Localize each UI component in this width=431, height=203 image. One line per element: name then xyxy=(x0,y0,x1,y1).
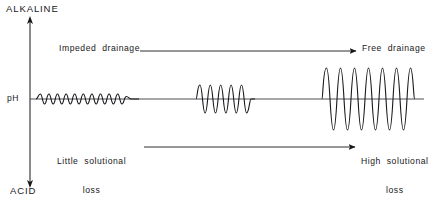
label-high-solutional-loss-line1: High solutional xyxy=(361,157,429,167)
axis-label-ph: pH xyxy=(7,94,19,104)
label-little-solutional-loss-line1: Little solutional xyxy=(57,157,126,167)
ph-drainage-diagram: ALKALINE ACID pH Impeded drainage Free d… xyxy=(0,0,431,203)
label-high-solutional-loss: High solutional loss xyxy=(361,137,429,203)
axis-label-alkaline: ALKALINE xyxy=(6,4,59,15)
label-impeded-drainage: Impeded drainage xyxy=(59,44,140,54)
label-free-drainage: Free drainage xyxy=(362,44,426,54)
vertical-axis xyxy=(27,16,33,188)
label-little-solutional-loss: Little solutional loss xyxy=(57,137,126,203)
label-little-solutional-loss-line2: loss xyxy=(57,186,126,196)
axis-label-acid: ACID xyxy=(10,186,36,197)
label-high-solutional-loss-line2: loss xyxy=(361,186,429,196)
